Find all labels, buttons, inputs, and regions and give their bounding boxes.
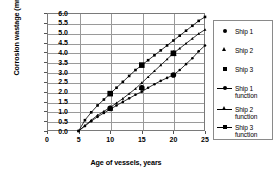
x-tick-label: 15 [132,136,152,143]
data-point [197,50,200,53]
line-circle-icon [217,84,232,93]
circle-marker-icon [217,27,232,36]
x-tick-mark [110,131,111,134]
y-axis-title: Corrosion wastage (mm) [12,0,21,95]
line-square-icon [217,123,232,132]
data-point [122,81,125,84]
x-axis-title: Age of vessels, years [47,158,205,167]
x-tick-label: 20 [163,136,183,143]
data-point [159,80,162,83]
legend-item-ship-3[interactable]: Ship 3 function [217,123,273,139]
x-tick-mark [173,131,174,134]
data-point [159,49,162,52]
data-point [204,28,207,31]
legend-label: Ship 2 [235,46,253,54]
legend-marker [223,86,227,90]
data-point [134,94,137,97]
x-tick-label: 25 [195,136,215,143]
legend-item-ship-2[interactable]: Ship 2 [217,46,273,55]
legend-marker [222,106,226,110]
data-point [90,111,93,114]
legend-item-ship-1[interactable]: Ship 1 function [217,84,273,100]
line-triangle-icon [217,105,232,114]
legend-label: Ship 1 function [235,84,257,100]
data-point [122,101,125,104]
data-point [166,77,169,80]
series-ship-2 [107,50,176,111]
legend-label: Ship 3 function [235,123,257,139]
x-tick-label: 0 [37,136,57,143]
series-ship-2-function [77,28,206,132]
legend-marker [222,47,226,51]
legend-marker [223,125,227,129]
data-point [147,86,150,89]
series-ship-3-function [77,16,206,133]
square-marker-icon [217,65,232,74]
data-point [153,54,156,57]
x-tick-label: 10 [100,136,120,143]
legend-marker [223,67,227,71]
series-plot-layer [47,13,205,131]
data-point [109,92,112,95]
x-tick-label: 5 [69,136,89,143]
legend-item-ship-1[interactable]: Ship 1 [217,27,273,36]
legend-label: Ship 2 function [235,105,257,121]
data-point [115,86,118,89]
data-point [204,44,207,47]
chart-legend: Ship 1Ship 2Ship 3Ship 1 functionShip 2 … [213,20,273,140]
data-point [141,64,144,67]
data-point [191,57,194,60]
data-point [96,104,99,107]
data-point [103,98,106,101]
data-point [84,119,87,122]
legend-item-ship-2[interactable]: Ship 2 function [217,105,273,121]
x-tick-mark [142,131,143,134]
data-point [191,24,194,27]
data-point [153,83,156,86]
data-point [128,97,131,100]
data-point [178,34,181,37]
data-point [141,90,144,93]
data-point [134,69,137,72]
data-point [197,20,200,23]
data-point [115,104,118,107]
corrosion-wastage-chart: Corrosion wastage (mm) 0.00.51.01.52.02.… [0,0,277,177]
legend-label: Ship 3 [235,65,253,73]
x-tick-mark [47,131,48,134]
data-point [172,39,175,42]
data-point [185,63,188,66]
data-point [178,69,181,72]
data-point [77,130,80,133]
data-point [166,44,169,47]
data-point [147,59,150,62]
data-point [204,16,207,19]
legend-label: Ship 1 [235,27,253,35]
data-point [185,29,188,32]
data-point [172,74,175,77]
triangle-marker-icon [217,46,232,55]
data-point [128,75,131,78]
x-tick-mark [205,131,206,134]
legend-item-ship-3[interactable]: Ship 3 [217,65,273,74]
legend-marker [223,29,227,33]
